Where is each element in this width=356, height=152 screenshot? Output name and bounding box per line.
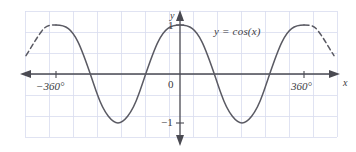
- plot-canvas: [0, 0, 356, 152]
- y-tick-label-one: 1: [168, 20, 174, 31]
- x-axis-right-arrow: [329, 70, 340, 78]
- y-axis-top-arrow: [176, 10, 184, 21]
- cosine-curve-dashed-right: [304, 25, 334, 56]
- y-axis-bottom-arrow: [176, 135, 184, 146]
- origin-label: 0: [168, 79, 174, 90]
- y-axis: [176, 10, 184, 146]
- x-tick-label-minus-360: −360°: [36, 81, 64, 92]
- x-axis-left-arrow: [20, 70, 31, 78]
- x-axis-label: x: [343, 78, 347, 88]
- x-tick-label-360: 360°: [291, 81, 312, 92]
- equation-annotation: y = cos(x): [214, 26, 261, 37]
- y-tick-label-minus-one: −1: [161, 117, 173, 128]
- cosine-curve-dashed-left: [26, 25, 56, 56]
- cosine-graph-figure: y x 1 −1 0 −360° 360° y = cos(x): [0, 0, 356, 152]
